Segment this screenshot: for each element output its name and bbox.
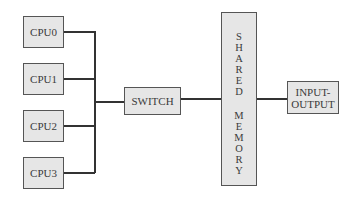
letter: E	[236, 75, 242, 86]
letter: H	[235, 42, 243, 53]
letter: R	[235, 154, 242, 165]
cpu0-box: CPU0	[23, 16, 64, 48]
cpu3-box: CPU3	[23, 157, 64, 189]
cpu0-connector	[64, 31, 95, 33]
letter: S	[236, 31, 242, 42]
shared-memory-label: S H A R E D M E M O R Y	[234, 31, 243, 176]
letter: D	[235, 86, 243, 97]
cpu2-box: CPU2	[23, 110, 64, 142]
cpu3-label: CPU3	[30, 167, 57, 179]
io-label-line2: OUTPUT	[291, 98, 334, 110]
cpu2-label: CPU2	[30, 120, 57, 132]
letter: E	[236, 121, 242, 132]
io-label-line1: INPUT-	[295, 86, 330, 98]
letter: O	[235, 143, 243, 154]
cpu1-box: CPU1	[23, 63, 64, 95]
shared-memory-box: S H A R E D M E M O R Y	[221, 12, 257, 186]
letter: A	[235, 53, 243, 64]
cpu2-connector	[64, 125, 95, 127]
cpu1-connector	[64, 78, 95, 80]
cpu3-connector	[64, 172, 95, 174]
cpu1-label: CPU1	[30, 73, 57, 85]
letter: M	[234, 110, 243, 121]
letter: Y	[235, 165, 243, 176]
memory-io-connector	[257, 98, 287, 100]
cpu0-label: CPU0	[30, 26, 57, 38]
letter: M	[234, 132, 243, 143]
switch-label: SWITCH	[131, 95, 173, 107]
bus-switch-connector	[95, 101, 124, 103]
letter: R	[235, 64, 242, 75]
input-output-box: INPUT- OUTPUT	[287, 81, 339, 114]
switch-box: SWITCH	[124, 87, 181, 115]
switch-memory-connector	[181, 98, 221, 100]
